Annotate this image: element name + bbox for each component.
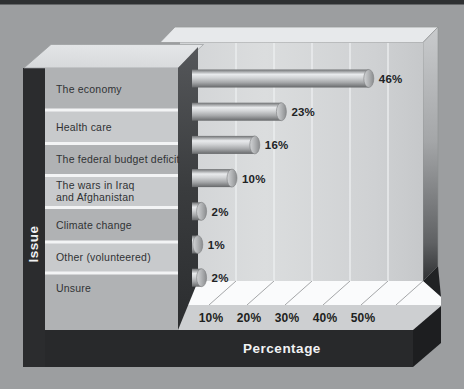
bar-value-label: 2% xyxy=(212,206,229,218)
band-separator xyxy=(45,241,178,244)
bar-end-cap xyxy=(227,169,237,187)
x-tick-label: 30% xyxy=(275,311,300,325)
chart-canvas: 0%10%20%30%40%50% The economyHealth care… xyxy=(0,0,464,389)
survey-bar-chart-figure: 0%10%20%30%40%50% The economyHealth care… xyxy=(0,0,464,389)
bar-value-label: 23% xyxy=(291,106,315,118)
bar-value-label: 10% xyxy=(242,173,266,185)
category-label: Unsure xyxy=(56,282,91,294)
wall-right-face xyxy=(423,27,438,281)
bar-value-label: 16% xyxy=(265,139,289,151)
band-separator xyxy=(45,174,178,177)
bar-end-cap xyxy=(193,236,203,254)
bar-end-cap xyxy=(197,202,207,220)
panel-top-face xyxy=(24,45,204,69)
bar-end-cap xyxy=(250,136,260,154)
bar-1 xyxy=(192,103,281,121)
slab-bottom-band xyxy=(45,330,413,367)
band-separator xyxy=(45,272,178,275)
bar-2 xyxy=(192,136,255,154)
bar-0 xyxy=(192,70,369,88)
category-label: The economy xyxy=(56,83,122,95)
top-edge-strip xyxy=(0,0,464,5)
x-axis-title: Percentage xyxy=(243,341,321,356)
bar-end-cap xyxy=(364,70,374,88)
band-separator xyxy=(45,206,178,209)
bar-value-label: 1% xyxy=(208,239,225,251)
bar-value-label: 2% xyxy=(212,272,229,284)
x-tick-label: 10% xyxy=(199,311,224,325)
wall-top-face xyxy=(160,27,438,43)
slab-left-band xyxy=(23,68,45,367)
category-label: Climate change xyxy=(56,219,132,231)
panel-right-edge-face xyxy=(178,47,198,330)
x-tick-label: 50% xyxy=(351,311,376,325)
bar-end-cap xyxy=(276,103,286,121)
band-separator xyxy=(45,142,178,145)
bar-end-cap xyxy=(197,269,207,287)
y-axis-title: Issue xyxy=(26,225,41,262)
x-tick-label: 20% xyxy=(237,311,262,325)
x-tick-label: 40% xyxy=(313,311,338,325)
band-separator xyxy=(45,109,178,112)
category-label: The federal budget deficit xyxy=(56,153,180,165)
category-label: The wars in Iraq xyxy=(56,179,134,191)
category-label: and Afghanistan xyxy=(56,191,134,203)
bar-value-label: 46% xyxy=(379,73,403,85)
category-label: Other (volunteered) xyxy=(56,251,151,263)
bar-3 xyxy=(192,169,232,187)
category-label: Health care xyxy=(56,121,112,133)
